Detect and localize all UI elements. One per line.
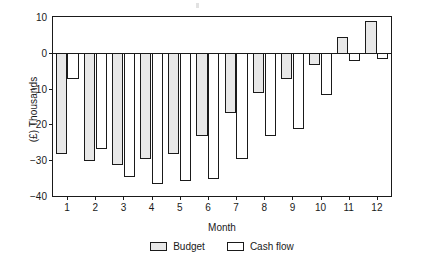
bar-cash-flow-month-2 — [96, 53, 107, 149]
bar-budget-month-10 — [309, 53, 320, 65]
y-axis-tick — [49, 89, 53, 90]
bar-budget-month-2 — [84, 53, 95, 161]
x-axis-tick-label: 7 — [233, 202, 239, 213]
bar-cash-flow-month-11 — [349, 53, 360, 61]
x-axis-tick — [152, 196, 153, 200]
x-axis-tick-label: 4 — [149, 202, 155, 213]
bar-budget-month-11 — [337, 37, 348, 54]
x-axis-tick — [349, 196, 350, 200]
y-axis-tick — [49, 124, 53, 125]
plot-inner — [53, 17, 391, 196]
legend-swatch-budget — [150, 242, 167, 251]
y-axis-tick-label: −10 — [30, 83, 47, 94]
x-axis-tick-label: 5 — [177, 202, 183, 213]
x-axis-tick — [95, 196, 96, 200]
x-axis-tick-label: 10 — [315, 202, 326, 213]
x-axis-tick — [292, 196, 293, 200]
bar-cash-flow-month-9 — [293, 53, 304, 129]
bar-cash-flow-month-8 — [265, 53, 276, 136]
x-axis-tick-label: 11 — [344, 202, 354, 213]
x-axis-tick — [123, 196, 124, 200]
bar-cash-flow-month-6 — [208, 53, 219, 179]
x-axis-tick-label: 8 — [261, 202, 267, 213]
x-axis-tick — [264, 196, 265, 200]
bar-budget-month-5 — [168, 53, 179, 154]
bar-budget-month-8 — [253, 53, 264, 93]
y-axis-tick-label: −40 — [30, 191, 47, 202]
legend-swatch-cash-flow — [227, 242, 244, 251]
y-axis-tick-label: 0 — [41, 47, 47, 58]
cash-flow-bar-chart: (£) Thousands 100−10−20−30−4012345678910… — [0, 0, 442, 265]
y-axis-tick-label: −30 — [30, 155, 47, 166]
bar-budget-month-12 — [365, 21, 376, 54]
x-axis-tick — [377, 196, 378, 200]
legend-entry-budget: Budget — [150, 241, 205, 252]
x-axis-tick-label: 9 — [290, 202, 296, 213]
bar-budget-month-6 — [196, 53, 207, 136]
x-axis-tick — [236, 196, 237, 200]
y-axis-tick — [49, 160, 53, 161]
bar-budget-month-1 — [56, 53, 67, 154]
bar-cash-flow-month-1 — [67, 53, 78, 79]
bar-budget-month-7 — [225, 53, 236, 113]
x-axis-tick — [180, 196, 181, 200]
x-axis-tick-label: 1 — [64, 202, 70, 213]
x-axis-tick-label: 3 — [121, 202, 127, 213]
chart-legend: Budget Cash flow — [52, 241, 392, 252]
bar-budget-month-3 — [112, 53, 123, 165]
x-axis-tick — [208, 196, 209, 200]
legend-label-cash-flow: Cash flow — [250, 241, 294, 252]
y-axis-tick-label: −20 — [30, 119, 47, 130]
bar-cash-flow-month-4 — [152, 53, 163, 185]
y-axis-title: (£) Thousands — [28, 25, 39, 195]
plot-area: 100−10−20−30−40123456789101112 — [52, 16, 392, 197]
x-axis-tick-label: 12 — [371, 202, 382, 213]
x-axis-tick — [67, 196, 68, 200]
bar-cash-flow-month-10 — [321, 53, 332, 95]
bar-cash-flow-month-7 — [236, 53, 247, 160]
bar-budget-month-4 — [140, 53, 151, 160]
bar-cash-flow-month-12 — [377, 53, 388, 59]
bar-cash-flow-month-3 — [124, 53, 135, 178]
x-axis-tick — [321, 196, 322, 200]
legend-label-budget: Budget — [173, 241, 205, 252]
y-axis-tick-label: 10 — [36, 12, 47, 23]
x-axis-tick-label: 2 — [92, 202, 98, 213]
scan-artifact-speck — [196, 3, 199, 8]
x-axis-tick-label: 6 — [205, 202, 211, 213]
bar-cash-flow-month-5 — [180, 53, 191, 181]
x-axis-title: Month — [52, 222, 392, 233]
y-axis-tick — [49, 53, 53, 54]
legend-entry-cash-flow: Cash flow — [227, 241, 294, 252]
bar-budget-month-9 — [281, 53, 292, 79]
